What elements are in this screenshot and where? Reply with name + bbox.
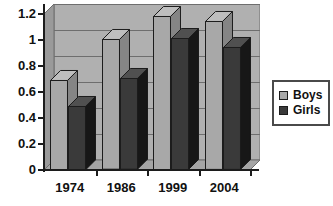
x-axis-line (44, 169, 259, 171)
x-tick-mark (96, 170, 98, 176)
chart-legend: BoysGirls (272, 80, 330, 126)
y-tick-label: 0.4 (18, 111, 36, 124)
x-tick-label: 1999 (147, 180, 199, 195)
bar-girls-1986 (120, 68, 149, 170)
y-tick-mark (38, 13, 45, 15)
bar-chart: 00.20.40.60.811.2 1974198619992004 BoysG… (0, 0, 333, 206)
y-tick-mark (38, 143, 45, 145)
legend-item-boys[interactable]: Boys (279, 89, 322, 101)
x-tick-mark (147, 170, 149, 176)
legend-item-girls[interactable]: Girls (279, 104, 322, 116)
legend-swatch-boys (279, 91, 288, 100)
bar-girls-2004 (223, 37, 252, 170)
y-tick-label: 1.2 (18, 7, 36, 20)
y-tick-label: 1 (29, 33, 36, 46)
x-tick-label: 1986 (96, 180, 148, 195)
plot-area (44, 14, 250, 170)
x-tick-mark (199, 170, 201, 176)
bar-girls-1999 (171, 28, 200, 170)
legend-label: Boys (293, 89, 322, 101)
x-tick-label: 1974 (44, 180, 96, 195)
x-tick-mark (250, 170, 252, 176)
y-tick-mark (38, 117, 45, 119)
y-tick-label: 0 (29, 163, 36, 176)
y-tick-label: 0.8 (18, 59, 36, 72)
y-tick-mark (38, 39, 45, 41)
y-tick-label: 0.2 (18, 137, 36, 150)
y-tick-mark (38, 65, 45, 67)
gridline (54, 4, 260, 5)
y-tick-mark (38, 169, 45, 171)
legend-swatch-girls (279, 106, 288, 115)
legend-label: Girls (293, 104, 320, 116)
y-tick-label: 0.6 (18, 85, 36, 98)
y-axis-line (43, 4, 45, 172)
x-tick-label: 2004 (199, 180, 251, 195)
bar-girls-1974 (68, 96, 97, 170)
y-axis-labels: 00.20.40.60.811.2 (0, 0, 36, 206)
y-tick-mark (38, 91, 45, 93)
